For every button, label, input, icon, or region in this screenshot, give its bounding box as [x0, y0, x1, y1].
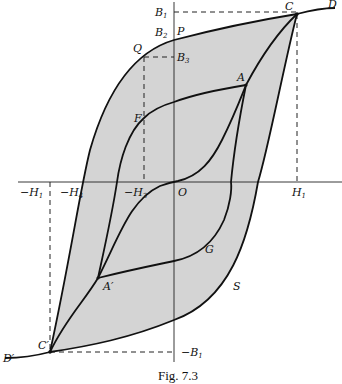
point-c-marker	[295, 12, 299, 16]
hysteresis-diagram: B1 B2 P Q B3 C D A F −H1 −H4 −H3 O H1 G …	[0, 0, 342, 384]
label-origin: O	[178, 186, 187, 199]
label-b2: B2	[154, 26, 168, 40]
label-f: F	[133, 112, 142, 125]
label-s: S	[233, 280, 241, 293]
label-d: D	[327, 0, 337, 11]
label-c: C	[285, 0, 294, 13]
label-neg-h4: −H4	[60, 186, 83, 200]
label-a-prime: A′	[102, 280, 114, 293]
outer-loop-shading	[50, 14, 297, 352]
label-p: P	[176, 25, 185, 38]
point-a-prime-marker	[96, 276, 99, 279]
label-g: G	[205, 243, 214, 256]
label-neg-h1: −H1	[20, 186, 43, 200]
label-a: A	[236, 71, 245, 84]
label-neg-b1: −B1	[181, 346, 203, 360]
label-b1: B1	[154, 6, 168, 20]
label-d-prime: D′	[2, 352, 15, 365]
label-h1: H1	[291, 186, 306, 200]
figure-caption: Fig. 7.3	[158, 368, 198, 383]
label-q: Q	[133, 42, 142, 55]
label-c-prime: C′	[38, 339, 49, 352]
